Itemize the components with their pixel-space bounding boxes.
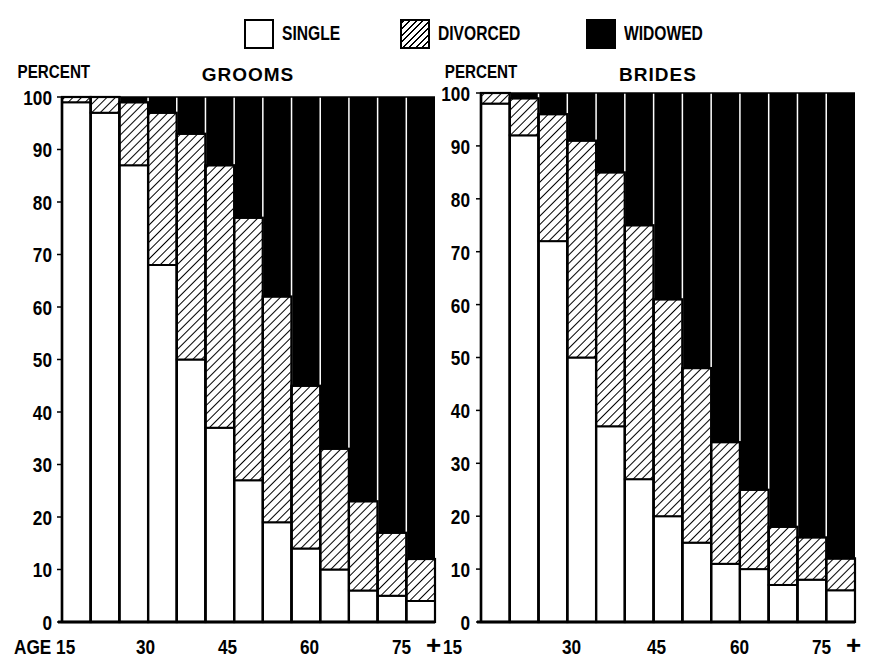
segment-widowed [263, 97, 292, 297]
bars-grooms [62, 97, 435, 622]
segment-divorced [826, 559, 855, 591]
segment-divorced [234, 218, 263, 481]
segment-single [263, 522, 292, 622]
segment-divorced [625, 225, 654, 479]
y-tick-label: 80 [451, 188, 470, 211]
bar-15-19 [62, 97, 91, 622]
segment-widowed [234, 97, 263, 218]
x-tick-label: AGE 15 [14, 635, 75, 658]
x-tick-plus: + [846, 630, 861, 660]
segment-divorced [510, 98, 539, 135]
segment-divorced [539, 114, 568, 241]
y-tick-label: 80 [33, 191, 52, 214]
segment-single [349, 591, 378, 623]
segment-single [682, 543, 711, 622]
segment-single [625, 479, 654, 622]
y-tick-label: 90 [33, 139, 52, 162]
bar-60-64 [740, 93, 769, 622]
segment-divorced [177, 134, 206, 360]
x-tick-label: 15 [443, 635, 462, 658]
segment-widowed [682, 93, 711, 368]
bar-75+ [406, 97, 435, 622]
bar-45-49 [234, 97, 263, 622]
y-tick-label: 0 [42, 611, 52, 634]
segment-single [740, 569, 769, 622]
bars-brides [481, 93, 855, 622]
segment-widowed [177, 97, 206, 134]
y-tick-label: 50 [33, 349, 52, 372]
bar-25-29 [539, 93, 568, 622]
segment-divorced [263, 297, 292, 523]
x-tick-label: 30 [136, 635, 155, 658]
segment-divorced [148, 113, 177, 265]
segment-single [234, 480, 263, 622]
bar-55-59 [711, 93, 740, 622]
segment-divorced [682, 368, 711, 543]
segment-widowed [740, 93, 769, 490]
segment-divorced [320, 449, 349, 570]
segment-single [711, 564, 740, 622]
y-tick-label: 10 [451, 559, 470, 582]
segment-divorced [596, 172, 625, 426]
bar-20-24 [510, 93, 539, 622]
segment-divorced [292, 386, 321, 549]
bar-45-49 [654, 93, 683, 622]
segment-widowed [148, 97, 177, 113]
x-tick-label: 30 [562, 635, 581, 658]
panel-title-brides: BRIDES [619, 64, 697, 85]
segment-single [119, 165, 148, 622]
y-tick-label: 90 [451, 135, 470, 158]
x-tick-label: 60 [300, 635, 319, 658]
bar-15-19 [481, 93, 510, 622]
segment-single [797, 580, 826, 622]
segment-single [62, 102, 91, 622]
y-tick-label: 100 [23, 86, 52, 109]
bar-65-69 [349, 97, 378, 622]
segment-widowed [349, 97, 378, 501]
segment-widowed [711, 93, 740, 442]
y-tick-label: 40 [451, 400, 470, 423]
segment-widowed [826, 93, 855, 559]
x-tick-label: 45 [218, 635, 237, 658]
y-tick-label: 70 [451, 241, 470, 264]
y-axis-label-brides: PERCENT [445, 60, 518, 82]
bar-70-74 [797, 93, 826, 622]
segment-divorced [481, 93, 510, 104]
bar-50-54 [682, 93, 711, 622]
bar-40-44 [625, 93, 654, 622]
segment-divorced [797, 537, 826, 579]
segment-divorced [349, 501, 378, 590]
segment-single [826, 590, 855, 622]
chart-figure: SINGLE DIVORCED WIDOWED PERCENT GROOMS 0… [0, 0, 879, 670]
y-tick-label: 10 [33, 559, 52, 582]
segment-widowed [596, 93, 625, 172]
y-tick-label: 60 [451, 294, 470, 317]
y-tick-label: 100 [441, 82, 470, 105]
segment-widowed [320, 97, 349, 449]
segment-single [769, 585, 798, 622]
x-tick-label: 45 [647, 635, 666, 658]
segment-single [378, 596, 407, 622]
segment-single [567, 358, 596, 623]
bar-40-44 [205, 97, 234, 622]
segment-divorced [769, 527, 798, 585]
x-tick-plus: + [426, 630, 441, 660]
panel-title-grooms: GROOMS [202, 64, 295, 85]
bar-35-39 [177, 97, 206, 622]
y-tick-label: 50 [451, 347, 470, 370]
bar-50-54 [263, 97, 292, 622]
x-tick-label: 60 [730, 635, 749, 658]
segment-widowed [797, 93, 826, 537]
segment-widowed [378, 97, 407, 533]
y-tick-label: 30 [451, 453, 470, 476]
y-tick-label: 40 [33, 401, 52, 424]
segment-divorced [711, 442, 740, 564]
x-tick-label: 75 [392, 635, 411, 658]
panel-grooms: PERCENT GROOMS 0102030405060708090100AGE… [14, 60, 441, 660]
segment-single [406, 601, 435, 622]
segment-single [510, 135, 539, 622]
bar-20-24 [91, 97, 120, 622]
segment-widowed [567, 93, 596, 141]
segment-single [596, 426, 625, 622]
segment-widowed [406, 97, 435, 559]
